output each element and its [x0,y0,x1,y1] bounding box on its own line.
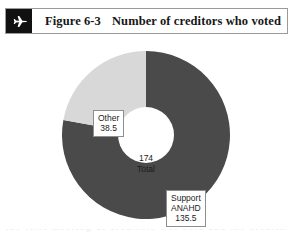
pie-label-other: Other 38.5 [93,110,124,137]
pie-label-support-line2: ANAHD [171,203,201,213]
pie-chart: Other 38.5 Support ANAHD 135.5 174 Total [0,34,293,220]
figure-title: Number of creditors who voted [112,14,281,29]
pie-chart-svg [0,34,293,220]
page-bottom-cutoff-text: the first meeting of creditors was held … [6,229,287,239]
pie-label-support-line1: Support [171,193,201,203]
pie-label-support-anahd: Support ANAHD 135.5 [166,190,206,227]
donut-center-label: 174 Total [128,153,164,175]
figure-caption-bar: Figure 6-3 Number of creditors who voted [5,8,288,34]
donut-center-value: 174 [128,153,164,164]
pie-label-other-name: Other [98,113,119,123]
pie-label-other-value: 38.5 [98,123,119,133]
pie-label-support-value: 135.5 [171,213,201,223]
donut-center-caption: Total [128,164,164,175]
figure-caption-text: Figure 6-3 Number of creditors who voted [32,9,287,33]
figure-number: Figure 6-3 [45,14,101,29]
page-bottom-cutoff-line: the first meeting of creditors was held … [6,229,287,232]
airplane-icon [6,9,32,33]
